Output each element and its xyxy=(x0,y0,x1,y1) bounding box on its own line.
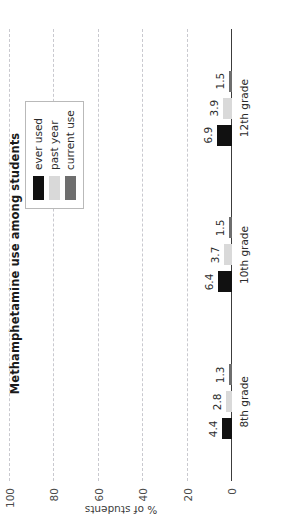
legend-item[interactable]: current use xyxy=(64,110,76,200)
bar[interactable] xyxy=(222,418,232,439)
category-label: 8th grade xyxy=(238,359,250,445)
bar-column: 6.4 xyxy=(10,272,232,293)
bar-value-label: 3.7 xyxy=(209,247,221,264)
bar-column: 1.5 xyxy=(10,218,232,239)
chart-stage: Methamphetamine use among students % of … xyxy=(0,0,285,527)
bar-column: 2.8 xyxy=(10,391,232,412)
bar-value-label: 3.9 xyxy=(208,100,220,117)
legend-label: ever used xyxy=(32,118,44,170)
bar-group: 4.42.81.38th grade xyxy=(10,359,232,445)
bar-value-label: 6.4 xyxy=(203,274,215,291)
y-tick-label-40: 40 xyxy=(137,488,149,501)
category-label: 10th grade xyxy=(238,212,250,298)
y-tick-label-80: 80 xyxy=(48,488,60,501)
bar-group: 6.43.71.510th grade xyxy=(10,212,232,298)
bar-value-label: 1.5 xyxy=(214,220,226,237)
y-tick-label-20: 20 xyxy=(182,488,194,501)
bar[interactable] xyxy=(229,218,232,239)
y-axis-title: % of students xyxy=(10,503,232,517)
bar-group-bars: 6.43.71.5 xyxy=(10,212,232,298)
legend-item[interactable]: past year xyxy=(48,110,60,200)
bar[interactable] xyxy=(218,272,232,293)
y-tick-label-100: 100 xyxy=(4,488,16,508)
legend-label: past year xyxy=(48,121,60,170)
legend-item[interactable]: ever used xyxy=(32,110,44,200)
bar-column: 1.5 xyxy=(10,71,232,92)
bar[interactable] xyxy=(229,364,232,385)
bar[interactable] xyxy=(226,391,232,412)
chart-figure: Methamphetamine use among students % of … xyxy=(0,0,285,527)
y-tick-label-60: 60 xyxy=(93,488,105,501)
bar-group-bars: 4.42.81.3 xyxy=(10,359,232,445)
legend-swatch-icon xyxy=(33,176,44,200)
bar-value-label: 2.8 xyxy=(211,394,223,411)
category-label: 12th grade xyxy=(238,65,250,151)
bar-column: 3.7 xyxy=(10,245,232,266)
y-axis-title-label: % of students xyxy=(85,504,157,516)
bar-value-label: 1.5 xyxy=(214,73,226,90)
bar-value-label: 6.9 xyxy=(202,127,214,144)
bar[interactable] xyxy=(223,98,232,119)
bar-column: 4.4 xyxy=(10,418,232,439)
bar[interactable] xyxy=(224,245,232,266)
bar-value-label: 4.4 xyxy=(207,421,219,438)
plot-area: 0204060801004.42.81.38th grade6.43.71.51… xyxy=(10,29,232,481)
bar[interactable] xyxy=(229,71,232,92)
chart-legend: ever usedpast yearcurrent use xyxy=(25,101,84,209)
bar-column: 1.3 xyxy=(10,364,232,385)
bar-value-label: 1.3 xyxy=(214,367,226,384)
legend-swatch-icon xyxy=(49,176,60,200)
legend-swatch-icon xyxy=(65,176,76,200)
legend-label: current use xyxy=(64,110,76,170)
y-tick-label-0: 0 xyxy=(226,488,238,495)
bar[interactable] xyxy=(217,125,232,146)
